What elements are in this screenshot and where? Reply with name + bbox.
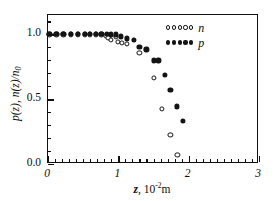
y-tick-major <box>48 164 54 165</box>
x-tick-minor <box>210 159 211 162</box>
x-tick-major <box>259 156 260 162</box>
x-tick-label: 3 <box>255 168 261 180</box>
legend-item-n: n <box>166 21 204 34</box>
data-point-n <box>109 38 114 43</box>
data-point-p <box>119 34 124 39</box>
x-tick-minor <box>97 159 98 162</box>
y-title-n0: n0 <box>9 67 21 77</box>
open-circle-icon <box>166 25 193 29</box>
x-tick-minor <box>132 159 133 162</box>
data-point-n <box>124 41 129 46</box>
x-tick-minor <box>69 159 70 162</box>
data-point-p <box>156 58 161 63</box>
y-tick-major <box>48 99 54 100</box>
x-tick-minor <box>125 159 126 162</box>
x-tick-minor <box>161 159 162 162</box>
filled-circle-icon <box>166 40 193 44</box>
x-title-unit: m <box>162 183 171 195</box>
data-point-n <box>168 132 173 137</box>
legend-label: n <box>198 22 204 34</box>
x-tick-major <box>189 156 190 162</box>
y-tick-minor <box>48 86 51 87</box>
x-tick-minor <box>252 159 253 162</box>
data-point-p <box>137 44 142 49</box>
data-point-p <box>162 73 167 78</box>
y-tick-minor <box>48 125 51 126</box>
x-tick-minor <box>168 159 169 162</box>
y-title-nz: (z)/ <box>9 76 21 91</box>
y-title-n: n <box>9 92 21 98</box>
x-tick-minor <box>90 159 91 162</box>
legend-item-p: p <box>166 36 204 49</box>
x-tick-minor <box>245 159 246 162</box>
data-point-n <box>137 51 142 56</box>
x-tick-minor <box>111 159 112 162</box>
y-tick-minor <box>48 112 51 113</box>
x-tick-minor <box>104 159 105 162</box>
chart-figure: np 0123 0.00.51.0 z, 10-2m p(z), n(z)/n0 <box>0 0 277 201</box>
y-tick-minor <box>48 21 51 22</box>
chart-legend: np <box>166 21 204 51</box>
data-point-p <box>144 47 149 52</box>
y-title-sep: , <box>9 97 21 103</box>
x-tick-minor <box>224 159 225 162</box>
y-tick-major <box>48 34 54 35</box>
y-tick-label: 0.0 <box>8 157 41 169</box>
x-tick-minor <box>83 159 84 162</box>
data-point-p <box>180 119 185 124</box>
data-point-n <box>151 75 156 80</box>
x-tick-major <box>48 156 49 162</box>
y-tick-minor <box>48 47 51 48</box>
x-tick-label: 1 <box>114 168 120 180</box>
y-tick-minor <box>48 138 51 139</box>
x-tick-minor <box>139 159 140 162</box>
data-point-p <box>124 36 129 41</box>
data-point-p <box>168 87 173 92</box>
legend-label: p <box>198 37 204 49</box>
x-tick-minor <box>175 159 176 162</box>
data-point-n <box>159 106 164 111</box>
data-point-p <box>174 104 179 109</box>
data-points-layer <box>48 15 257 162</box>
x-tick-minor <box>196 159 197 162</box>
x-tick-minor <box>203 159 204 162</box>
x-tick-major <box>118 156 119 162</box>
x-tick-label: 0 <box>44 168 50 180</box>
x-tick-minor <box>238 159 239 162</box>
y-title-pz: (z) <box>9 103 21 115</box>
x-title-scale: , 10 <box>138 183 155 195</box>
x-tick-minor <box>146 159 147 162</box>
y-axis-title: p(z), n(z)/n0 <box>10 34 22 154</box>
x-tick-label: 2 <box>185 168 191 180</box>
y-tick-minor <box>48 151 51 152</box>
x-tick-minor <box>154 159 155 162</box>
x-tick-minor <box>62 159 63 162</box>
data-point-n <box>175 152 180 157</box>
y-tick-minor <box>48 60 51 61</box>
data-point-p <box>131 38 136 43</box>
y-title-p: p <box>9 115 21 121</box>
y-tick-minor <box>48 73 51 74</box>
x-tick-minor <box>76 159 77 162</box>
x-axis-title: z, 10-2m <box>133 182 170 195</box>
plot-frame: np <box>47 14 258 163</box>
x-tick-minor <box>55 159 56 162</box>
x-tick-minor <box>217 159 218 162</box>
x-tick-minor <box>231 159 232 162</box>
x-tick-minor <box>182 159 183 162</box>
